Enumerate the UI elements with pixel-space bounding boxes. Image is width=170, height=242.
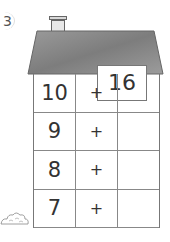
- answer-cell[interactable]: [118, 151, 159, 189]
- chimney-icon: [49, 16, 67, 31]
- addend-cell: 7: [34, 190, 76, 228]
- bush-icon: [0, 210, 30, 226]
- house-row: 10 +: [34, 74, 159, 113]
- house-roof: 16: [27, 30, 164, 75]
- house-row: 9 +: [34, 113, 159, 152]
- answer-cell[interactable]: [118, 74, 159, 112]
- house-row: 7 +: [34, 190, 159, 229]
- exercise-number: 3: [0, 11, 18, 31]
- answer-cell[interactable]: [118, 190, 159, 228]
- plus-sign: +: [76, 190, 118, 228]
- answer-cell[interactable]: [118, 113, 159, 151]
- plus-sign: +: [76, 151, 118, 189]
- house-row: 8 +: [34, 151, 159, 190]
- addend-cell: 10: [34, 74, 76, 112]
- plus-sign: +: [76, 113, 118, 151]
- plus-sign: +: [76, 74, 118, 112]
- addend-cell: 9: [34, 113, 76, 151]
- addend-cell: 8: [34, 151, 76, 189]
- number-house-grid: 10 + 9 + 8 + 7 +: [33, 74, 160, 228]
